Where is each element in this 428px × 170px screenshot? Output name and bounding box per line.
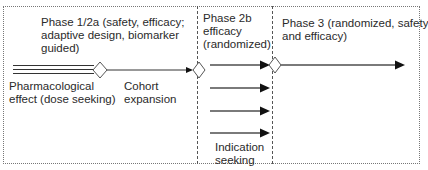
arrowhead-icon — [260, 107, 270, 116]
milestone-diamond-icon — [193, 62, 205, 78]
triple-line-icon — [13, 66, 94, 74]
milestone-diamond-icon — [269, 57, 281, 73]
indication-arrows — [210, 61, 270, 138]
arrowhead-icon — [260, 129, 270, 138]
arrowhead-icon — [260, 84, 270, 93]
arrowhead-icon — [186, 67, 193, 73]
milestone-diamond-icon — [93, 62, 107, 78]
arrowhead-icon — [395, 61, 405, 70]
